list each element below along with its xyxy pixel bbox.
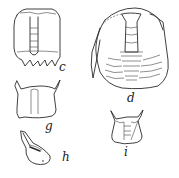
label-d: d	[127, 92, 135, 104]
panel-c-drawing	[14, 9, 60, 66]
panel-h-drawing	[21, 131, 50, 165]
figure-canvas: c d g h i	[0, 0, 179, 178]
label-g: g	[45, 120, 53, 132]
panel-d-drawing	[91, 8, 168, 89]
trilobite-drawings	[0, 0, 179, 178]
label-i: i	[124, 146, 128, 158]
label-h: h	[62, 151, 70, 163]
label-c: c	[59, 61, 66, 73]
panel-i-drawing	[111, 110, 143, 144]
panel-g-drawing	[15, 80, 60, 118]
